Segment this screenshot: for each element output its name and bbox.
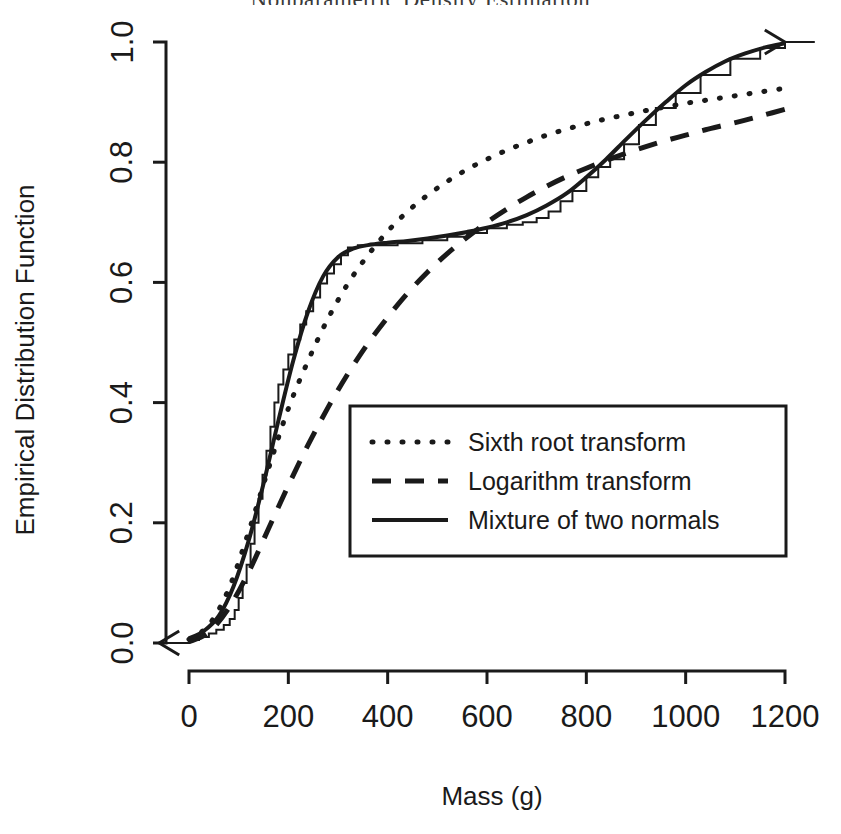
y-axis-line xyxy=(153,42,166,643)
y-axis-tick-label: 0.0 xyxy=(105,621,140,664)
y-axis-tick-label: 0.4 xyxy=(105,381,140,424)
x-axis-tick-label: 200 xyxy=(262,699,314,734)
legend-label-2: Mixture of two normals xyxy=(468,506,719,534)
x-axis-tick-label: 600 xyxy=(461,699,513,734)
y-axis-tick-labels: 0.00.20.40.60.81.0 xyxy=(105,20,140,664)
x-axis-tick-label: 1200 xyxy=(751,699,820,734)
x-axis: 020040060080010001200 xyxy=(180,671,819,734)
y-axis-tick-label: 0.2 xyxy=(105,501,140,544)
plot-area xyxy=(159,30,815,655)
figure-panel: Nonparametric Density Estimation 0.00.20… xyxy=(0,0,841,834)
x-axis-tick-labels: 020040060080010001200 xyxy=(180,699,819,734)
y-axis-tick-label: 0.6 xyxy=(105,261,140,304)
legend-label-1: Logarithm transform xyxy=(468,467,692,495)
series-logarithm-transform xyxy=(189,109,785,641)
y-axis: 0.00.20.40.60.81.0 xyxy=(105,20,167,664)
y-axis-label: Empirical Distribution Function xyxy=(10,184,40,535)
x-axis-tick-label: 800 xyxy=(560,699,612,734)
y-axis-tick-label: 1.0 xyxy=(105,20,140,63)
ecdf-chart: 0.00.20.40.60.81.0 020040060080010001200… xyxy=(0,0,841,834)
x-axis-label: Mass (g) xyxy=(441,781,542,811)
x-axis-tick-label: 1000 xyxy=(651,699,720,734)
legend-label-0: Sixth root transform xyxy=(468,428,686,456)
x-axis-ticks xyxy=(288,671,685,684)
legend: Sixth root transform Logarithm transform… xyxy=(350,406,786,556)
y-axis-ticks xyxy=(153,162,166,523)
x-axis-tick-label: 0 xyxy=(180,699,197,734)
y-axis-tick-label: 0.8 xyxy=(105,141,140,184)
x-axis-tick-label: 400 xyxy=(362,699,414,734)
